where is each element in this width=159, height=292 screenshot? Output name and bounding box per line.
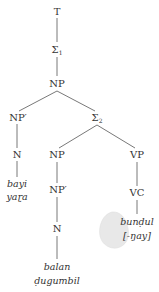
node-vp: VP bbox=[130, 150, 144, 160]
leaf-left-line2: yaɽa bbox=[6, 192, 27, 202]
node-t: T bbox=[54, 7, 61, 17]
node-sigma1: Σ1 bbox=[52, 45, 63, 56]
node-np-root: NP bbox=[49, 79, 64, 89]
edge-np-npprime bbox=[19, 91, 57, 111]
node-sigma1-subscript: 1 bbox=[59, 49, 63, 56]
leaf-mid-line2: ḍugumbil bbox=[34, 276, 80, 286]
syntax-tree: T Σ1 NP NP′ Σ2 N NP VP bayi yaɽa NP′ VC … bbox=[0, 0, 159, 292]
leaf-right-line1: bunḍul bbox=[120, 217, 154, 227]
edge-sigma2-np bbox=[59, 125, 97, 148]
node-vc: VC bbox=[130, 188, 145, 198]
edge-sigma2-vp bbox=[97, 125, 135, 148]
node-np-prime-mid: NP′ bbox=[49, 185, 67, 195]
node-np-mid: NP bbox=[49, 150, 64, 160]
node-n-mid: N bbox=[53, 224, 62, 234]
tree-edges bbox=[0, 0, 159, 292]
edge-np-sigma2 bbox=[57, 91, 95, 111]
node-np-prime-left: NP′ bbox=[9, 113, 27, 123]
leaf-left-line1: bayi bbox=[7, 179, 27, 189]
node-sigma2-subscript: 2 bbox=[99, 117, 103, 124]
leaf-right-line2: [-ŋay] bbox=[123, 231, 151, 241]
leaf-mid-line1: balan bbox=[44, 262, 71, 272]
node-sigma2: Σ2 bbox=[92, 113, 103, 124]
node-n-left: N bbox=[13, 150, 22, 160]
